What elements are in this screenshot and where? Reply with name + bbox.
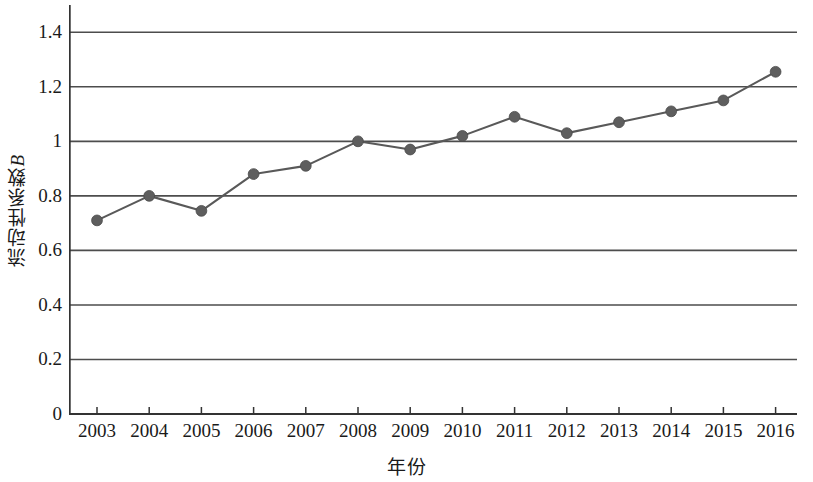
data-point-marker xyxy=(196,205,207,216)
plot-area xyxy=(69,5,798,415)
data-point-marker xyxy=(614,117,625,128)
data-point-marker xyxy=(561,128,572,139)
y-axis-tick-label: 0.6 xyxy=(26,240,62,259)
data-point-marker xyxy=(718,95,729,106)
data-point-marker xyxy=(457,130,468,141)
y-axis-tick-label: 0.2 xyxy=(26,349,62,368)
y-axis-tick-label: 0.8 xyxy=(26,186,62,205)
data-point-marker xyxy=(405,144,416,155)
x-axis-title: 年份 xyxy=(0,452,813,479)
data-point-marker xyxy=(248,169,259,180)
y-axis-tick-label: 1.2 xyxy=(26,77,62,96)
data-point-marker xyxy=(353,136,364,147)
data-point-marker xyxy=(300,160,311,171)
x-axis-tick-labels: 2003200420052006200720082009201020112012… xyxy=(0,421,813,451)
data-line xyxy=(97,72,776,221)
y-axis-tick-label: 1.4 xyxy=(26,22,62,41)
data-point-marker xyxy=(92,215,103,226)
data-point-marker xyxy=(666,106,677,117)
plot-svg xyxy=(69,5,798,415)
y-axis-tick-label: 1 xyxy=(26,131,62,150)
y-axis-tick-labels: 00.20.40.60.811.21.4 xyxy=(26,0,62,482)
data-point-marker xyxy=(770,66,781,77)
line-chart: 流动性系数B 00.20.40.60.811.21.4 200320042005… xyxy=(0,0,813,482)
data-point-marker xyxy=(144,190,155,201)
y-axis-tick-label: 0.4 xyxy=(26,295,62,314)
y-axis-title-latin: B xyxy=(7,154,28,167)
x-axis-tick-label: 2016 xyxy=(741,421,811,442)
data-point-marker xyxy=(509,111,520,122)
y-axis-title-cjk: 流动性系数 xyxy=(7,166,28,266)
